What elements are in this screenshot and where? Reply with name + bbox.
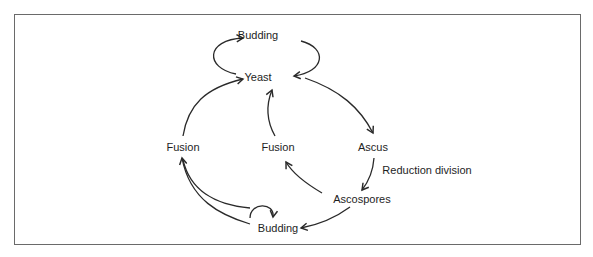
node-fusion-middle: Fusion (261, 141, 294, 153)
arrow-fusion-middle-to-yeast (268, 90, 275, 136)
arrow-yeast-to-ascus (305, 78, 373, 133)
arrow-ascospores-to-fusion-middle (286, 162, 322, 193)
node-budding-top: Budding (238, 29, 278, 41)
arrow-yeast-to-budding-top (214, 38, 243, 74)
edge-label-reduction-division: Reduction division (382, 164, 471, 176)
arrow-budding-top-to-yeast (294, 41, 319, 76)
arrow-budding-bottom-to-fusion-left-1 (182, 158, 250, 224)
node-fusion-left: Fusion (166, 141, 199, 153)
arrow-ascus-to-ascospores (362, 158, 374, 190)
arrows-layer (0, 0, 593, 257)
arrow-fusion-left-to-yeast (183, 79, 243, 136)
arrow-budding-bottom-self-loop (250, 206, 273, 218)
node-yeast: Yeast (244, 71, 271, 83)
node-ascospores: Ascospores (333, 193, 390, 205)
node-ascus: Ascus (358, 141, 388, 153)
arrow-budding-bottom-to-fusion-left-2 (183, 160, 250, 208)
arrow-ascospores-to-budding-bottom (301, 207, 350, 228)
node-budding-bottom: Budding (258, 222, 298, 234)
